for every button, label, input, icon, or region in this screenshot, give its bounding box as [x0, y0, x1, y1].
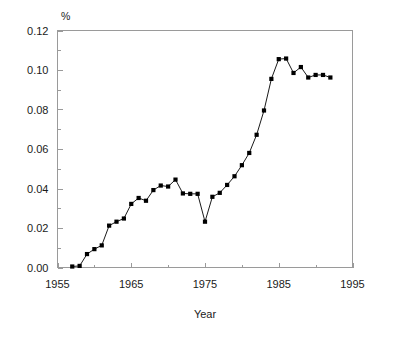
data-point	[328, 75, 332, 79]
data-point	[122, 216, 126, 220]
data-point	[240, 163, 244, 167]
y-tick-label: 0.10	[27, 64, 48, 76]
data-point	[188, 192, 192, 196]
data-point	[255, 133, 259, 137]
data-point	[107, 224, 111, 228]
data-point	[247, 151, 251, 155]
data-point	[269, 77, 273, 81]
data-point	[100, 243, 104, 247]
data-point	[166, 184, 170, 188]
x-tick-label: 1975	[193, 278, 217, 290]
data-point	[203, 220, 207, 224]
data-point	[114, 220, 118, 224]
data-point	[159, 183, 163, 187]
data-point	[129, 202, 133, 206]
data-point	[181, 191, 185, 195]
y-axis-unit-label: %	[61, 10, 70, 22]
data-point	[225, 183, 229, 187]
data-point	[321, 73, 325, 77]
data-point	[232, 174, 236, 178]
x-tick-label: 1955	[45, 278, 69, 290]
line-chart: 0.000.020.040.060.080.100.12 19551965197…	[0, 0, 400, 344]
data-point	[151, 188, 155, 192]
data-point	[85, 252, 89, 256]
chart-figure: 0.000.020.040.060.080.100.12 19551965197…	[0, 0, 400, 344]
data-point	[284, 56, 288, 60]
data-point	[277, 57, 281, 61]
data-point	[218, 191, 222, 195]
data-point	[144, 199, 148, 203]
data-point	[137, 196, 141, 200]
x-axis-title: Year	[194, 308, 217, 320]
x-tick-label: 1995	[340, 278, 364, 290]
data-point	[196, 192, 200, 196]
data-point	[210, 195, 214, 199]
y-tick-label: 0.02	[27, 222, 48, 234]
y-tick-label: 0.04	[27, 183, 48, 195]
chart-background	[0, 0, 400, 344]
y-tick-label: 0.12	[27, 25, 48, 37]
data-point	[314, 73, 318, 77]
data-point	[262, 108, 266, 112]
y-tick-label: 0.00	[27, 262, 48, 274]
y-tick-label: 0.06	[27, 143, 48, 155]
data-point	[291, 71, 295, 75]
data-point	[173, 178, 177, 182]
data-point	[70, 264, 74, 268]
y-tick-label: 0.08	[27, 104, 48, 116]
x-tick-label: 1985	[267, 278, 291, 290]
data-point	[306, 75, 310, 79]
x-tick-label: 1965	[119, 278, 143, 290]
data-point	[92, 247, 96, 251]
data-point	[299, 65, 303, 69]
data-point	[78, 264, 82, 268]
